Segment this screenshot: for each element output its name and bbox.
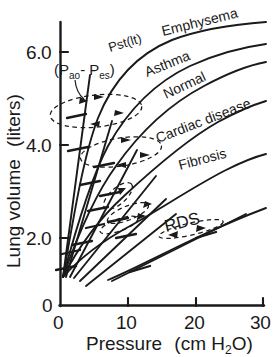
xtick-label-10: 10 xyxy=(116,312,136,333)
pao-pes-label: (Pao- Pes) xyxy=(54,61,115,81)
curve-labels: Pst(lt) Emphysema Asthma Normal Cardiac … xyxy=(106,5,253,236)
cross-tick xyxy=(80,181,100,185)
curve-label-emphysema: Emphysema xyxy=(160,5,240,39)
curve-fibrosis xyxy=(63,154,266,277)
pao-pes-annotation: (Pao- Pes) xyxy=(54,61,115,104)
annotation-sub-ao: ao xyxy=(69,70,81,81)
figure-page: 6.0 4.0 2.0 0 0 10 20 30 Pressure (cm H2… xyxy=(0,0,276,357)
loop-arrow xyxy=(118,188,126,195)
x-axis-title-main: Pressure xyxy=(86,333,162,354)
ytick-label-0: 0 xyxy=(42,295,52,316)
loop-arrow xyxy=(121,137,131,143)
xtick-label-0: 0 xyxy=(53,312,63,333)
y-axis-title: Lung volume (liters) xyxy=(3,94,24,268)
y-axis-units: (liters) xyxy=(3,94,24,147)
annotation-close: ) xyxy=(110,61,115,78)
loop-arrow xyxy=(114,110,124,116)
xtick-label-20: 20 xyxy=(184,312,204,333)
cross-tick xyxy=(94,163,114,167)
annotation-leader-line xyxy=(75,80,84,99)
ytick-label-6: 6.0 xyxy=(26,42,51,63)
pressure-volume-figure: 6.0 4.0 2.0 0 0 10 20 30 Pressure (cm H2… xyxy=(0,0,276,357)
ytick-label-4: 4.0 xyxy=(26,135,51,156)
x-axis-units-tail: O) xyxy=(232,333,253,354)
curve-label-rds: RDS xyxy=(162,209,201,236)
annotation-open: (P xyxy=(54,61,69,78)
ytick-label-2: 2.0 xyxy=(26,228,51,249)
x-axis-units-open: (cm H xyxy=(174,333,225,354)
y-axis-title-main: Lung volume xyxy=(3,159,24,268)
loop-arrow xyxy=(140,152,150,158)
tick-labels: 6.0 4.0 2.0 0 0 10 20 30 xyxy=(26,42,270,333)
cross-tick xyxy=(68,147,88,151)
x-axis-title: Pressure (cm H2O) xyxy=(86,333,253,357)
annotation-mid: - P xyxy=(80,61,99,78)
cross-tick xyxy=(67,114,86,118)
annotation-sub-es: es xyxy=(99,70,110,81)
curve-label-pst: Pst(lt) xyxy=(106,31,143,55)
curve-label-fibrosis: Fibrosis xyxy=(177,145,228,173)
curve-label-cardiac-disease: Cardiac disease xyxy=(153,95,253,146)
xtick-label-30: 30 xyxy=(250,312,270,333)
hysteresis-loop-cluster-b xyxy=(105,198,151,227)
pst-line-5 xyxy=(80,199,166,281)
